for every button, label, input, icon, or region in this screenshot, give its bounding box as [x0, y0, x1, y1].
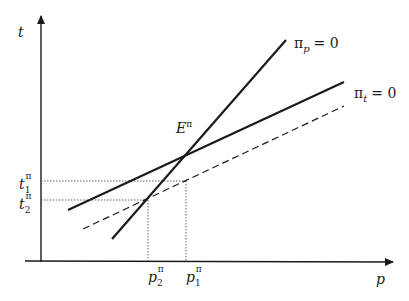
x-axis — [25, 261, 393, 262]
pi-t-label: πt= 0 — [354, 85, 396, 104]
diagram-canvas: t p πp= 0 πt= 0 Eπ t1π t2π p2π p1π — [0, 0, 409, 301]
t2-label: t2π — [19, 191, 31, 215]
pi-p-label: πp= 0 — [294, 35, 339, 54]
x-axis-label: p — [376, 271, 385, 287]
pi-p-line — [112, 40, 286, 239]
y-axis-label: t — [18, 24, 24, 40]
equilibrium-label: Eπ — [175, 119, 192, 136]
pi-t-line — [68, 82, 344, 210]
p2-label: p2π — [148, 264, 164, 288]
p1-label: p1π — [186, 264, 202, 288]
